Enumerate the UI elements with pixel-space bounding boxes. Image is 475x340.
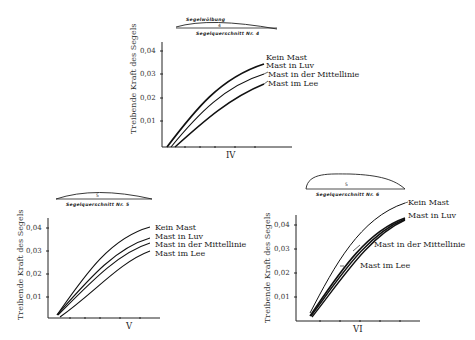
ytick-iv-002: 0,02 xyxy=(140,94,156,102)
legend-v-mast-lee: Mast im Lee xyxy=(155,249,206,258)
sail-caption-v: Segelquerschnitt Nr. 5 xyxy=(66,202,129,207)
curve-iv-mast-lee xyxy=(175,84,264,147)
sail-profile-v: 5 Segelquerschnitt Nr. 5 xyxy=(56,193,152,208)
sail-profile-vi: 5 Segelquerschnitt Nr. 6 xyxy=(306,174,405,197)
sail-number-v: 5 xyxy=(96,193,99,198)
ytick-vi-004: 0,04 xyxy=(274,221,290,229)
ytick-vi-003: 0,03 xyxy=(274,245,290,253)
legend-v-mast-mittellinie: Mast in der Mittellinie xyxy=(155,240,247,249)
legend-v-kein-mast: Kein Mast xyxy=(155,223,197,232)
sail-caption-iv: Segelquerschnitt Nr. 4 xyxy=(196,31,259,36)
figure: Segelwölbung 4 Segelquerschnitt Nr. 4 0,… xyxy=(0,0,475,340)
panel-v: 5 Segelquerschnitt Nr. 5 0,04 0,03 0,02 … xyxy=(16,193,247,332)
legend-vi-kein-mast: Kein Mast xyxy=(408,198,450,207)
x-axis-label-vi: VI xyxy=(352,324,363,334)
sail-top-label-iv: Segelwölbung xyxy=(186,17,226,22)
legend-vi-mast-lee: Mast im Lee xyxy=(360,261,411,270)
ytick-vi-001: 0,01 xyxy=(274,293,290,301)
panel-iv: Segelwölbung 4 Segelquerschnitt Nr. 4 0,… xyxy=(129,17,360,160)
sail-profile-iv: Segelwölbung 4 Segelquerschnitt Nr. 4 xyxy=(176,17,277,36)
y-axis-label-v: Treibende Kraft des Segels xyxy=(16,210,25,320)
sail-number-vi: 5 xyxy=(345,182,348,187)
x-axis-label-v: V xyxy=(125,321,133,331)
ytick-v-003: 0,03 xyxy=(26,247,42,255)
curve-v-mast-lee xyxy=(60,251,150,317)
legend-iv-mast-mittellinie: Mast in der Mittellinie xyxy=(268,70,360,79)
legend-vi-mast-luv: Mast in Luv xyxy=(408,211,457,220)
ytick-v-004: 0,04 xyxy=(26,224,42,232)
ytick-iv-001: 0,01 xyxy=(140,117,156,125)
curve-v-mast-mittellinie xyxy=(58,243,150,315)
y-axis-label-iv: Treibende Kraft des Segels xyxy=(129,24,138,134)
ytick-v-002: 0,02 xyxy=(26,270,42,278)
curve-v-mast-luv xyxy=(57,238,150,315)
legend-iv-mast-luv: Mast in Luv xyxy=(266,61,315,70)
legend-vi-mast-mittellinie: Mast in der Mittellinie xyxy=(374,240,466,249)
sail-caption-vi: Segelquerschnitt Nr. 6 xyxy=(316,192,379,197)
ytick-vi-002: 0,02 xyxy=(274,269,290,277)
sail-number-iv: 4 xyxy=(218,23,221,28)
ytick-iv-003: 0,03 xyxy=(140,70,156,78)
ytick-v-001: 0,01 xyxy=(26,293,42,301)
panel-vi: 5 Segelquerschnitt Nr. 6 0,04 0,03 0,02 … xyxy=(263,174,466,334)
legend-iv-mast-lee: Mast im Lee xyxy=(268,79,319,88)
y-axis-label-vi: Treibende Kraft des Segels xyxy=(263,213,272,323)
ytick-iv-004: 0,04 xyxy=(140,47,156,55)
x-axis-label-iv: IV xyxy=(226,150,236,160)
